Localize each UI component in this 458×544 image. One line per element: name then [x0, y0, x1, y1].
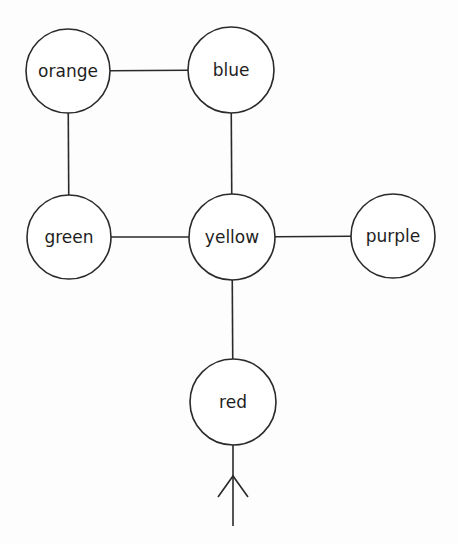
- node-label-orange: orange: [38, 61, 98, 81]
- graph-diagram: orange blue green yellow purple red: [0, 0, 458, 544]
- node-green: green: [27, 195, 111, 279]
- node-label-purple: purple: [366, 226, 421, 246]
- node-blue: blue: [188, 27, 274, 113]
- node-yellow: yellow: [189, 194, 275, 280]
- node-red: red: [190, 359, 276, 445]
- node-label-red: red: [219, 392, 247, 412]
- node-label-green: green: [44, 227, 93, 247]
- node-purple: purple: [351, 194, 435, 278]
- entry-arrow: [218, 445, 248, 526]
- nodes-layer: orange blue green yellow purple red: [26, 27, 435, 445]
- node-orange: orange: [26, 29, 110, 113]
- node-label-blue: blue: [213, 60, 250, 80]
- node-label-yellow: yellow: [205, 227, 259, 247]
